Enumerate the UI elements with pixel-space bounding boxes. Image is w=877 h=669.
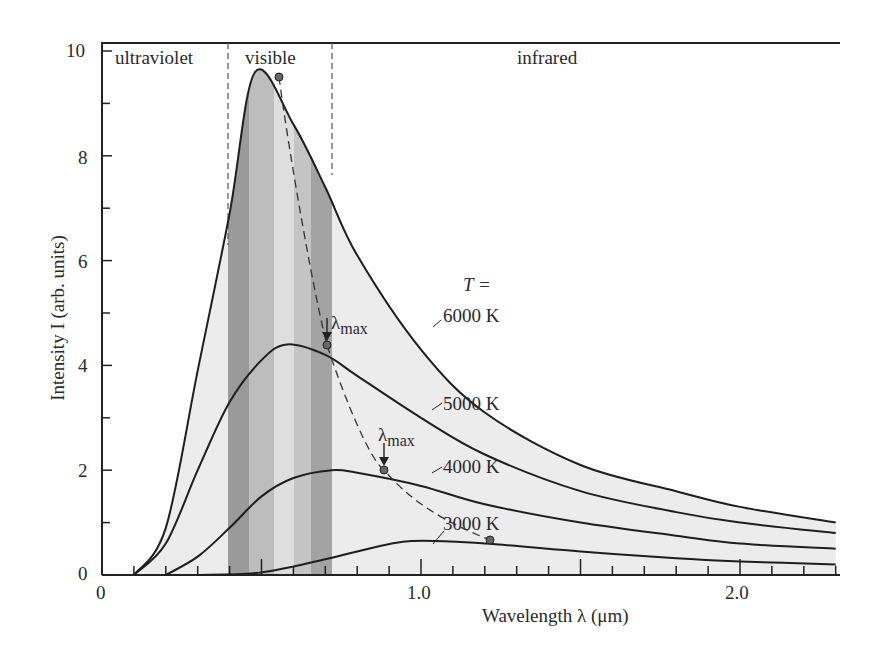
peak-6000k xyxy=(275,73,283,81)
series-label-6000k: 6000 K xyxy=(443,305,499,327)
y-tick-4: 4 xyxy=(78,355,88,377)
y-axis-label: Intensity I (arb. units) xyxy=(47,235,69,401)
region-label-ultraviolet: ultraviolet xyxy=(115,47,193,69)
leader-6000k xyxy=(433,320,441,327)
x-tick-2: 2.0 xyxy=(725,582,749,604)
x-tick-1: 1.0 xyxy=(407,582,431,604)
y-tick-0: 0 xyxy=(78,563,88,585)
y-tick-2: 2 xyxy=(78,460,88,482)
y-tick-6: 6 xyxy=(78,251,88,273)
y-tick-8: 8 xyxy=(78,147,88,169)
series-label-5000k: 5000 K xyxy=(443,393,499,415)
x-tick-0: 0 xyxy=(96,582,106,604)
blackbody-chart xyxy=(0,0,877,669)
region-label-infrared: infrared xyxy=(517,47,577,69)
lambda-max-label-2: λmax xyxy=(378,424,415,450)
peak-4000k xyxy=(380,466,388,474)
x-axis-label: Wavelength λ (μm) xyxy=(482,605,629,627)
series-label-3000k: 3000 K xyxy=(443,513,499,535)
lambda-max-label-1: λmax xyxy=(331,312,368,338)
series-label-4000k: 4000 K xyxy=(443,456,499,478)
legend-header: T = xyxy=(463,274,491,296)
region-label-visible: visible xyxy=(245,47,296,69)
peak-3000k xyxy=(486,536,494,544)
y-tick-10: 10 xyxy=(66,40,85,62)
peak-5000k xyxy=(323,341,331,349)
